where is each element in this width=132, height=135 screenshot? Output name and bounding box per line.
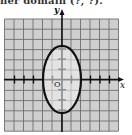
x-axis-label: x xyxy=(120,80,125,90)
ellipse-curve xyxy=(43,46,81,113)
ellipse-graph: x y O xyxy=(0,0,132,135)
origin-label: O xyxy=(54,80,61,89)
y-axis-label: y xyxy=(53,5,60,15)
